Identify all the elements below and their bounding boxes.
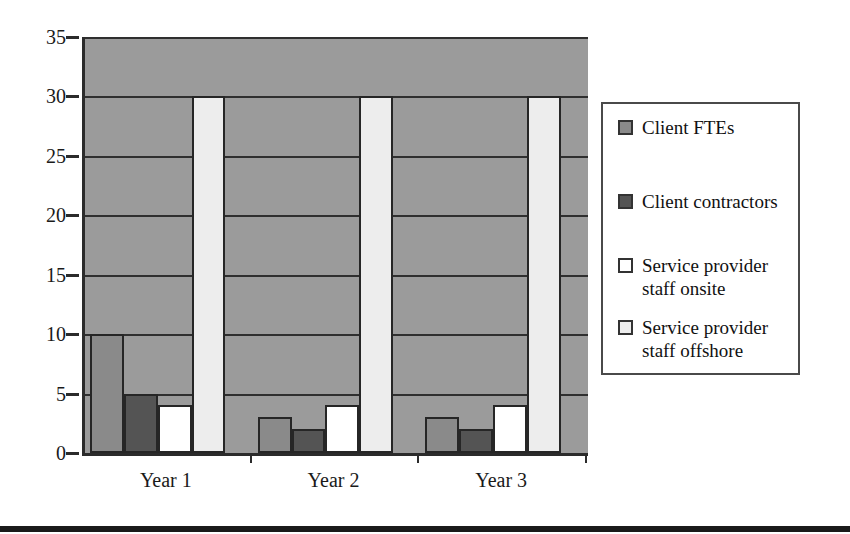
y-tick-label: 25: [22, 146, 66, 166]
bar: [425, 417, 459, 453]
x-tick-mark: [250, 453, 252, 463]
legend-swatch-icon: [618, 194, 633, 209]
y-axis: 05101520253035: [16, 37, 66, 453]
y-tick-label: 30: [22, 86, 66, 106]
y-tick-label: 5: [22, 384, 66, 404]
legend-item[interactable]: Client contractors: [618, 190, 800, 213]
bar: [493, 405, 527, 453]
y-tick-mark: [66, 452, 79, 455]
legend-label: Client contractors: [642, 190, 800, 213]
gridline: [85, 334, 588, 336]
y-tick-mark: [66, 274, 79, 277]
bar: [359, 96, 393, 453]
legend-item[interactable]: Client FTEs: [618, 116, 800, 139]
bar: [192, 96, 226, 453]
bar: [292, 429, 326, 453]
bottom-rule: [0, 526, 850, 532]
bar: [325, 405, 359, 453]
x-tick-label: Year 1: [140, 468, 192, 492]
bar: [459, 429, 493, 453]
gridline: [85, 394, 588, 396]
y-tick-label: 35: [22, 27, 66, 47]
bar: [90, 334, 124, 453]
y-tick-label: 15: [22, 265, 66, 285]
legend-label: Service provider staff offshore: [642, 316, 800, 362]
y-tick-mark: [66, 393, 79, 396]
legend-swatch-icon: [618, 120, 633, 135]
bar: [258, 417, 292, 453]
legend-swatch-icon: [618, 258, 633, 273]
y-tick-label: 0: [22, 443, 66, 463]
x-tick-label: Year 2: [308, 468, 360, 492]
bar: [527, 96, 561, 453]
bar: [124, 394, 158, 453]
bar-chart-figure: 05101520253035 Year 1Year 2Year 3 Client…: [0, 0, 850, 534]
x-tick-mark: [417, 453, 419, 463]
gridline: [85, 37, 588, 39]
gridline: [85, 275, 588, 277]
legend-item[interactable]: Service provider staff onsite: [618, 254, 800, 300]
y-tick-mark: [66, 155, 79, 158]
bar: [158, 405, 192, 453]
y-tick-mark: [66, 333, 79, 336]
x-tick-mark: [585, 453, 587, 463]
y-tick-mark: [66, 95, 79, 98]
x-tick-label: Year 3: [475, 468, 527, 492]
legend-swatch-icon: [618, 320, 633, 335]
y-tick-mark: [66, 214, 79, 217]
gridline: [85, 215, 588, 217]
y-tick-mark: [66, 36, 79, 39]
gridline: [85, 156, 588, 158]
chart-legend: Client FTEsClient contractorsService pro…: [601, 102, 800, 375]
legend-label: Client FTEs: [642, 116, 800, 139]
legend-item[interactable]: Service provider staff offshore: [618, 316, 800, 362]
y-tick-label: 10: [22, 324, 66, 344]
y-tick-label: 20: [22, 205, 66, 225]
legend-label: Service provider staff onsite: [642, 254, 800, 300]
gridline: [85, 96, 588, 98]
plot-area: [82, 37, 588, 456]
